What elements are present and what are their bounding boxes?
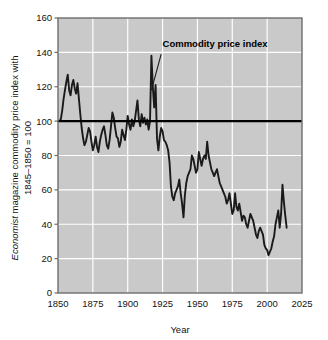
y-axis-title-baseline-note: 1845–1850 = 100 xyxy=(22,121,33,195)
y-axis-title-emphasis: Economist xyxy=(9,216,20,261)
y-axis-title-remainder: magazine commodity price index with xyxy=(9,56,20,217)
x-axis-tick-label: 1950 xyxy=(187,298,208,309)
x-axis-tick-label: 1975 xyxy=(222,298,243,309)
y-axis-tick-label: 140 xyxy=(36,47,52,58)
y-axis-tick-label: 120 xyxy=(36,81,52,92)
svg-text:Economist magazine commodity p: Economist magazine commodity price index… xyxy=(9,56,20,261)
y-axis-tick-label: 100 xyxy=(36,116,52,127)
y-axis-tick-label: 160 xyxy=(36,12,52,23)
x-axis-tick-label: 2025 xyxy=(291,298,312,309)
y-axis-tick-label: 40 xyxy=(41,219,52,230)
y-axis-tick-label: 0 xyxy=(47,287,52,298)
annotation-label-commodity-price-index: Commodity price index xyxy=(163,38,269,49)
x-axis-tick-label: 1925 xyxy=(152,298,173,309)
y-axis-tick-label: 20 xyxy=(41,253,52,264)
x-axis-tick-label: 1850 xyxy=(47,298,68,309)
x-axis-tick-label: 1875 xyxy=(82,298,103,309)
commodity-price-index-chart: 020406080100120140160 185018751900192519… xyxy=(0,0,328,340)
x-axis-title: Year xyxy=(170,324,189,335)
x-axis-tick-label: 2000 xyxy=(257,298,278,309)
x-axis-tick-label: 1900 xyxy=(117,298,138,309)
y-axis-tick-label: 80 xyxy=(41,150,52,161)
y-axis-tick-label: 60 xyxy=(41,184,52,195)
chart-figure: 020406080100120140160 185018751900192519… xyxy=(0,0,328,340)
